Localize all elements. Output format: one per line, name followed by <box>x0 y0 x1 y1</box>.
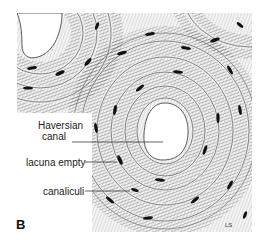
label-haversian-canal: Haversian canal <box>38 120 70 142</box>
label-canaliculi: canaliculi <box>43 186 84 197</box>
label-lacuna-empty: lacuna empty <box>26 157 85 168</box>
artist-signature: LS <box>225 222 232 228</box>
panel-letter: B <box>16 217 25 232</box>
label-line: canal <box>38 131 70 142</box>
haversian-canal <box>144 103 188 160</box>
bone-tissue <box>0 0 265 232</box>
label-line: Haversian <box>38 120 70 131</box>
